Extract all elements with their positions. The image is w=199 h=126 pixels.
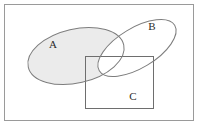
region-a-minus-b-shading	[0, 0, 199, 126]
venn-diagram-canvas: A B C	[0, 0, 199, 126]
set-b-label: B	[148, 20, 156, 32]
set-a-label: A	[49, 38, 57, 50]
venn-diagram-figure: A B C	[0, 0, 199, 126]
set-c-label: C	[129, 90, 137, 102]
